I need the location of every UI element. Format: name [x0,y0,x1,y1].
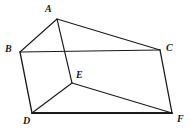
vertex-label-e: E [76,70,83,80]
edge-cf [160,50,172,113]
prism-drawing [0,0,191,132]
vertex-label-f: F [177,114,184,124]
vertex-label-d: D [23,116,30,126]
edge-de [32,83,72,113]
edge-bd [20,52,32,113]
geometry-diagram: ABCDEF [0,0,191,132]
edge-ef [72,83,172,113]
edge-ac [57,19,160,50]
edge-bc [20,50,160,52]
edge-ab [20,19,57,52]
vertex-label-b: B [5,44,12,54]
edge-group [20,19,172,113]
vertex-label-c: C [166,43,173,53]
vertex-label-a: A [45,4,52,14]
